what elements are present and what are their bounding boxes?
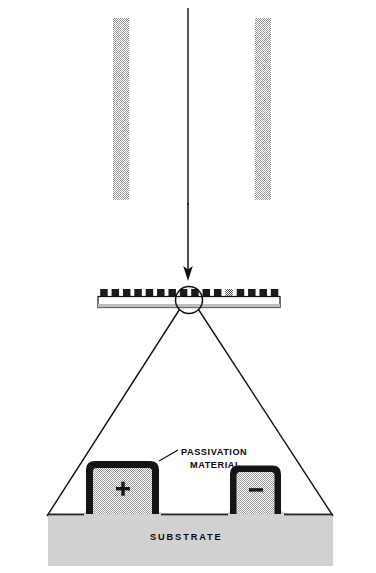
wafer-chip-6 — [168, 289, 176, 297]
passivation-label-line2: MATERIAL — [190, 460, 241, 470]
wafer-chip-2 — [123, 289, 131, 297]
wafer-chip-5 — [157, 289, 165, 297]
diagram-canvas: PASSIVATION MATERIAL SUBSTRATE — [0, 0, 376, 573]
wafer-strip-shadow — [98, 304, 280, 308]
wafer-chip-7 — [180, 289, 188, 297]
electrode-negative-body — [237, 472, 275, 514]
wafer-chip-11 — [225, 289, 233, 297]
wafer-chip-14 — [259, 289, 267, 297]
comb-right-bus-bar — [255, 18, 271, 200]
comb-left-bus-bar — [113, 18, 129, 200]
wafer-chip-13 — [248, 289, 256, 297]
wafer-chip-3 — [134, 289, 142, 297]
wafer-chip-9 — [203, 289, 211, 297]
substrate-label: SUBSTRATE — [150, 532, 223, 542]
wafer-chip-10 — [214, 289, 222, 297]
wafer-chip-12 — [237, 289, 245, 297]
semiconductor-process-diagram: PASSIVATION MATERIAL SUBSTRATE — [0, 0, 376, 573]
wafer-chip-1 — [112, 289, 120, 297]
wafer-chip-15 — [271, 289, 279, 297]
electrode-negative-group — [230, 466, 281, 515]
passivation-label-line1: PASSIVATION — [181, 447, 247, 457]
wafer-chip-4 — [146, 289, 154, 297]
electrode-positive-group — [86, 461, 159, 514]
wafer-chip-0 — [100, 289, 108, 297]
minus-symbol — [249, 488, 263, 491]
